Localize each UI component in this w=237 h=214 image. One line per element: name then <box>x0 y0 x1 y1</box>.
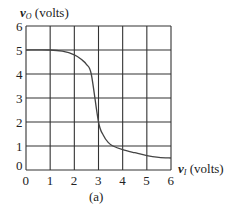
x-tick-label: 4 <box>119 174 126 187</box>
x-tick-label: 1 <box>47 174 54 187</box>
x-tick-label: 3 <box>95 174 102 187</box>
x-axis-label: vI (volts) <box>178 162 224 177</box>
y-tick-label: 6 <box>16 20 23 33</box>
x-tick-label: 6 <box>168 174 175 187</box>
x-tick-label: 2 <box>71 174 78 187</box>
y-tick-label: 1 <box>16 140 23 153</box>
y-tick-label: 2 <box>16 116 23 129</box>
y-tick-label: 5 <box>16 44 23 57</box>
y-tick-label: 0 <box>16 159 23 172</box>
y-tick-label: 3 <box>16 92 23 105</box>
figure-caption: (a) <box>89 190 103 203</box>
x-axis-unit: (volts) <box>186 161 223 176</box>
y-axis-label: vO (volts) <box>20 6 69 21</box>
x-tick-label: 0 <box>23 174 30 187</box>
y-axis-unit: (volts) <box>32 5 69 20</box>
y-tick-label: 4 <box>16 68 23 81</box>
x-tick-label: 5 <box>143 174 150 187</box>
